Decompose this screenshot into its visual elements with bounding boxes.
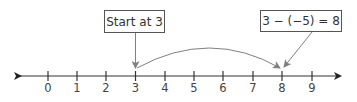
jump-arc-arrow [137,48,280,68]
tick-label-0: 0 [40,81,56,95]
start-label-box: Start at 3 [104,10,165,33]
tick-label-4: 4 [157,81,173,95]
tick-label-6: 6 [215,81,231,95]
tick-label-7: 7 [245,81,261,95]
result-leader-arrow [284,32,312,67]
result-label-box: 3 − (−5) = 8 [260,10,342,32]
tick-label-8: 8 [274,81,290,95]
tick-label-9: 9 [304,81,320,95]
tick-label-1: 1 [69,81,85,95]
tick-label-3: 3 [128,81,144,95]
tick-label-5: 5 [186,81,202,95]
tick-label-2: 2 [98,81,114,95]
